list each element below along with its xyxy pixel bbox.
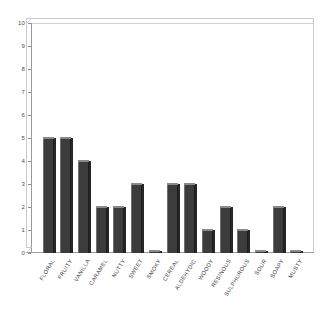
x-axis-tick-label: FRUITY — [56, 258, 73, 280]
bar-side-face — [160, 251, 162, 254]
y-axis-tick-label: 5 — [0, 135, 25, 141]
bar-column[interactable] — [76, 23, 94, 253]
y-axis-tick-label: 10 — [0, 20, 25, 26]
bar-column[interactable] — [129, 23, 147, 253]
x-axis-label-slot: MUSTY — [288, 256, 306, 316]
x-axis-label-slot: SULPHUROUS — [235, 256, 253, 316]
x-axis-tick-label: NUTTY — [110, 258, 126, 278]
bar-side-face — [71, 138, 73, 253]
bar-side-face — [178, 184, 180, 253]
x-axis-label-slot: VANILLA — [76, 256, 94, 316]
y-axis-tick-label: 4 — [0, 158, 25, 164]
y-axis-tick-label: 0 — [0, 250, 25, 256]
y-axis-tick-mark — [28, 253, 31, 254]
bar[interactable] — [131, 184, 142, 253]
bar-side-face — [195, 184, 197, 253]
x-axis-label-slot: SWEET — [129, 256, 147, 316]
bar-column[interactable] — [165, 23, 183, 253]
bar-top-face — [237, 229, 248, 231]
bar-top-face — [255, 250, 266, 252]
y-axis-tick-label: 3 — [0, 181, 25, 187]
y-axis-tick-mark — [28, 230, 31, 231]
bar[interactable] — [96, 207, 107, 253]
bar-column[interactable] — [288, 23, 306, 253]
bar-side-face — [266, 251, 268, 254]
x-axis-label-slot: SOAPY — [271, 256, 289, 316]
y-axis-tick-mark — [28, 69, 31, 70]
x-axis-tick-label: WOODY — [197, 258, 215, 281]
bar-top-face — [290, 250, 301, 252]
bar-side-face — [301, 251, 303, 254]
bar-side-face — [231, 207, 233, 253]
x-axis-label-slot: FLORAL — [41, 256, 59, 316]
y-axis-tick-label: 7 — [0, 89, 25, 95]
bar-top-face — [78, 160, 89, 162]
bar-column[interactable] — [111, 23, 129, 253]
bar-side-face — [107, 207, 109, 253]
bar[interactable] — [167, 184, 178, 253]
y-axis-tick-label: 1 — [0, 227, 25, 233]
bar-column[interactable] — [253, 23, 271, 253]
bar-side-face — [248, 230, 250, 253]
y-axis-tick-label: 8 — [0, 66, 25, 72]
bar[interactable] — [202, 230, 213, 253]
bar-chart: FLORALFRUITYVANILLACARAMELNUTTYSWEETSMOK… — [0, 0, 325, 321]
bar-column[interactable] — [58, 23, 76, 253]
y-axis-tick-mark — [28, 23, 31, 24]
y-axis-tick-mark — [28, 46, 31, 47]
bar-top-face — [167, 183, 178, 185]
bar-top-face — [184, 183, 195, 185]
x-axis-tick-label: FLORAL — [38, 258, 56, 281]
bar[interactable] — [113, 207, 124, 253]
bar[interactable] — [78, 161, 89, 253]
bar-top-face — [220, 206, 231, 208]
bar-side-face — [124, 207, 126, 253]
y-axis-tick-mark — [28, 161, 31, 162]
bar-side-face — [54, 138, 56, 253]
x-axis-label-slot: NUTTY — [111, 256, 129, 316]
x-axis-tick-label: VANILLA — [73, 258, 91, 282]
bar-column[interactable] — [147, 23, 165, 253]
x-axis-tick-label: SMOKY — [145, 258, 162, 280]
bar-top-face — [273, 206, 284, 208]
bar[interactable] — [273, 207, 284, 253]
bar-column[interactable] — [182, 23, 200, 253]
bar[interactable] — [184, 184, 195, 253]
bar-top-face — [202, 229, 213, 231]
bar-column[interactable] — [218, 23, 236, 253]
y-axis-tick-mark — [28, 138, 31, 139]
y-axis-tick-label: 2 — [0, 204, 25, 210]
bar[interactable] — [237, 230, 248, 253]
bar-column[interactable] — [235, 23, 253, 253]
bar-top-face — [113, 206, 124, 208]
x-axis-label-slot: SMOKY — [147, 256, 165, 316]
bar-column[interactable] — [94, 23, 112, 253]
bar-series — [31, 23, 314, 253]
bar-column[interactable] — [41, 23, 59, 253]
bar-column[interactable] — [200, 23, 218, 253]
bar-side-face — [142, 184, 144, 253]
bar-top-face — [43, 137, 54, 139]
bar-column[interactable] — [271, 23, 289, 253]
bar[interactable] — [60, 138, 71, 253]
bar[interactable] — [43, 138, 54, 253]
x-axis-tick-label: SOUR — [253, 258, 267, 276]
x-axis-label-slot: ALDEHYDIC — [182, 256, 200, 316]
y-axis-tick-mark — [28, 92, 31, 93]
x-axis-labels: FLORALFRUITYVANILLACARAMELNUTTYSWEETSMOK… — [31, 256, 314, 318]
x-axis-tick-label: CEREAL — [161, 258, 179, 282]
x-axis-label-slot: CARAMEL — [94, 256, 112, 316]
bar-top-face — [149, 250, 160, 252]
y-axis-tick-label: 9 — [0, 43, 25, 49]
y-axis-tick-label: 6 — [0, 112, 25, 118]
bar-side-face — [213, 230, 215, 253]
bar[interactable] — [220, 207, 231, 253]
bar-top-face — [60, 137, 71, 139]
bar-top-face — [96, 206, 107, 208]
y-axis-tick-mark — [28, 184, 31, 185]
bar-side-face — [284, 207, 286, 253]
bar-side-face — [89, 161, 91, 253]
bar-top-face — [131, 183, 142, 185]
x-axis-tick-label: MUSTY — [287, 258, 303, 279]
y-axis-tick-mark — [28, 115, 31, 116]
